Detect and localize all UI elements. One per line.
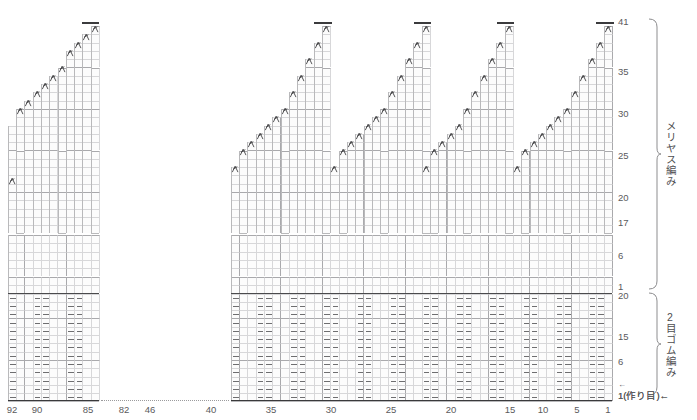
chart-cell	[273, 252, 281, 260]
x-tick-85: 85	[83, 404, 94, 415]
chart-cell	[240, 294, 248, 302]
chart-cell	[605, 142, 613, 150]
y-tick-25: 25	[618, 150, 629, 161]
purl-stitch-symbol	[75, 310, 83, 318]
chart-cell	[406, 302, 414, 310]
chart-cell	[25, 318, 33, 326]
purl-stitch-symbol	[34, 377, 42, 385]
chart-cell	[489, 252, 497, 260]
chart-cell	[514, 360, 522, 368]
chart-cell	[605, 318, 613, 326]
chart-cell	[481, 277, 489, 285]
purl-stitch-symbol	[323, 327, 331, 335]
chart-cell	[17, 343, 25, 351]
purl-stitch-symbol	[522, 368, 530, 376]
stockinette-column	[488, 59, 496, 233]
chart-cell	[605, 377, 613, 385]
purl-stitch-symbol	[423, 318, 431, 326]
chart-cell	[481, 243, 489, 251]
purl-stitch-symbol	[597, 368, 605, 376]
chart-cell	[497, 268, 505, 276]
chart-cell	[539, 268, 547, 276]
chart-cell	[240, 318, 248, 326]
chart-cell	[514, 343, 522, 351]
left-slanting-decrease-icon	[82, 33, 90, 41]
chart-cell	[605, 327, 613, 335]
chart-cell	[431, 243, 439, 251]
chart-cell	[348, 235, 356, 243]
purl-stitch-symbol	[42, 360, 50, 368]
left-slanting-decrease-icon	[347, 140, 355, 148]
purl-stitch-symbol	[423, 377, 431, 385]
x-tick-15: 15	[505, 404, 516, 415]
chart-cell	[547, 235, 555, 243]
chart-cell	[414, 385, 422, 393]
chart-cell	[75, 277, 83, 285]
chart-cell	[580, 277, 588, 285]
chart-cell	[83, 327, 91, 335]
chart-cell	[506, 260, 514, 268]
purl-stitch-symbol	[530, 352, 538, 360]
chart-cell	[506, 109, 514, 117]
rib-panel-left-bottom	[8, 360, 99, 402]
chart-cell	[381, 260, 389, 268]
chart-cell	[232, 268, 240, 276]
chart-cell	[58, 277, 66, 285]
purl-stitch-symbol	[589, 343, 597, 351]
chart-cell	[50, 243, 58, 251]
purl-stitch-symbol	[364, 294, 372, 302]
chart-cell	[572, 343, 580, 351]
purl-stitch-symbol	[290, 310, 298, 318]
chart-cell	[447, 335, 455, 343]
purl-stitch-symbol	[489, 368, 497, 376]
purl-stitch-symbol	[298, 368, 306, 376]
stockinette-column	[264, 126, 272, 234]
chart-cell	[25, 243, 33, 251]
chart-cell	[348, 327, 356, 335]
chart-cell	[489, 277, 497, 285]
chart-cell	[489, 268, 497, 276]
purl-stitch-symbol	[589, 335, 597, 343]
chart-cell	[50, 302, 58, 310]
purl-stitch-symbol	[298, 302, 306, 310]
chart-cell	[17, 294, 25, 302]
chart-cell	[481, 310, 489, 318]
chart-cell	[17, 368, 25, 376]
chart-cell	[92, 318, 100, 326]
purl-stitch-symbol	[265, 385, 273, 393]
chart-cell	[92, 184, 100, 192]
chart-cell	[514, 260, 522, 268]
chart-cell	[92, 51, 100, 59]
purl-stitch-symbol	[597, 310, 605, 318]
chart-cell	[373, 243, 381, 251]
chart-cell	[447, 252, 455, 260]
purl-stitch-symbol	[423, 294, 431, 302]
chart-cell	[50, 294, 58, 302]
left-slanting-decrease-icon	[247, 140, 255, 148]
chart-cell	[315, 343, 323, 351]
chart-cell	[348, 310, 356, 318]
chart-cell	[323, 252, 331, 260]
chart-cell	[497, 260, 505, 268]
chart-cell	[340, 377, 348, 385]
chart-cell	[414, 302, 422, 310]
chart-cell	[373, 335, 381, 343]
chart-cell	[506, 92, 514, 100]
purl-stitch-symbol	[464, 343, 472, 351]
left-slanting-decrease-icon	[305, 57, 313, 65]
brace-label-rib: 2目ゴム編み	[664, 311, 675, 378]
purl-stitch-symbol	[398, 343, 406, 351]
purl-stitch-symbol	[555, 318, 563, 326]
purl-stitch-symbol	[398, 360, 406, 368]
chart-cell	[281, 318, 289, 326]
chart-cell	[555, 235, 563, 243]
chart-cell	[605, 175, 613, 183]
purl-stitch-symbol	[34, 327, 42, 335]
chart-cell	[323, 101, 331, 109]
chart-cell	[9, 243, 17, 251]
chart-cell	[9, 268, 17, 276]
stockinette-column	[239, 151, 247, 234]
chart-cell	[447, 260, 455, 268]
chart-cell	[281, 277, 289, 285]
x-tick-5: 5	[574, 404, 579, 415]
